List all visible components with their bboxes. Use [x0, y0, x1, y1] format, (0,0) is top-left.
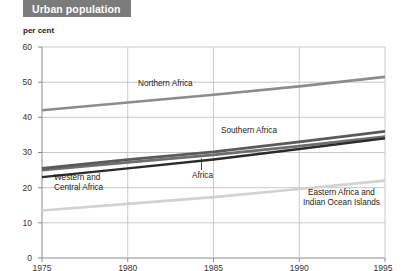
x-tick-1995: 1995: [363, 263, 403, 271]
y-tick-0: 0: [12, 253, 32, 263]
series-label-africa: Africa: [192, 171, 213, 181]
y-tick-10: 10: [12, 218, 32, 228]
series-label-western-central-line2: Central Africa: [54, 183, 103, 192]
series-label-eastern-line2: Indian Ocean Islands: [303, 198, 380, 207]
y-tick-40: 40: [12, 112, 32, 122]
plot-area: [0, 0, 409, 271]
x-tick-1980: 1980: [108, 263, 148, 271]
y-tick-30: 30: [12, 147, 32, 157]
y-tick-50: 50: [12, 77, 32, 87]
series-label-western-central-line1: Western and: [54, 173, 100, 182]
series-label-northern-africa: Northern Africa: [138, 79, 193, 89]
series-label-eastern-africa: Eastern Africa and Indian Ocean Islands: [303, 188, 380, 207]
series-label-eastern-line1: Eastern Africa and: [308, 188, 375, 197]
x-tick-1990: 1990: [279, 263, 319, 271]
series-label-western-central-africa: Western and Central Africa: [54, 173, 103, 192]
y-tick-60: 60: [12, 42, 32, 52]
urban-population-chart: Urban population per cent: [0, 0, 409, 271]
x-tick-1985: 1985: [194, 263, 234, 271]
series-label-southern-africa: Southern Africa: [221, 126, 277, 136]
x-tick-1975: 1975: [22, 263, 62, 271]
y-tick-20: 20: [12, 183, 32, 193]
